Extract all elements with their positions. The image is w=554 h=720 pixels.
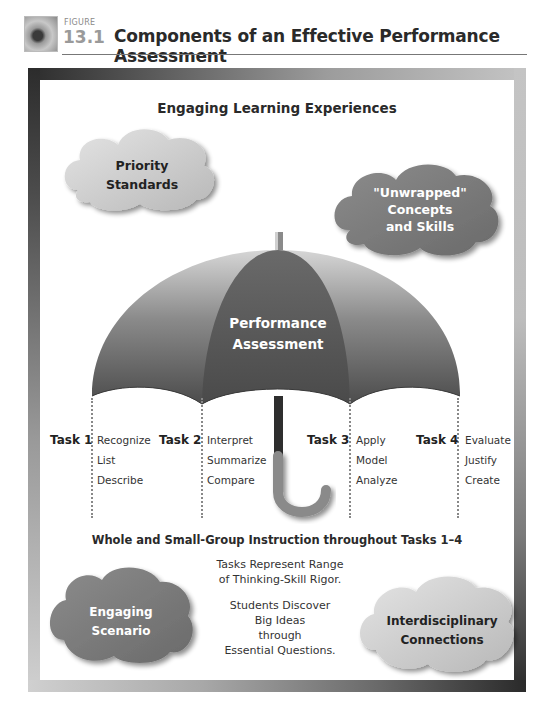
instruction-heading: Whole and Small-Group Instruction throug…	[40, 533, 514, 547]
rigor-line1: Tasks Represent Range	[200, 557, 360, 572]
priority-standards-line2: Standards	[82, 175, 202, 194]
engaging-scenario-line2: Scenario	[66, 622, 176, 641]
task1-label: Task 1	[50, 433, 92, 447]
priority-standards-line1: Priority	[82, 156, 202, 175]
discover-line3: through	[200, 628, 360, 643]
task3-label: Task 3	[307, 433, 349, 447]
skill-recognize: Recognize	[97, 430, 151, 450]
skill-summarize: Summarize	[207, 450, 266, 470]
skill-list: List	[97, 450, 151, 470]
top-heading: Engaging Learning Experiences	[40, 100, 514, 116]
interdisciplinary-line1: Interdisciplinary	[372, 612, 512, 631]
skill-analyze: Analyze	[356, 470, 397, 490]
task4-divider	[457, 398, 459, 518]
discover-line2: Big Ideas	[200, 613, 360, 628]
rigor-line2: of Thinking-Skill Rigor.	[200, 572, 360, 587]
task4-label: Task 4	[416, 433, 458, 447]
unwrapped-line2: Concepts	[360, 201, 480, 218]
skill-create: Create	[465, 470, 511, 490]
interdisciplinary-label: Interdisciplinary Connections	[372, 612, 512, 650]
skill-model: Model	[356, 450, 397, 470]
umbrella-label: Performance Assessment	[214, 313, 342, 355]
task3-skills: Apply Model Analyze	[356, 430, 397, 490]
unwrapped-label: "Unwrapped" Concepts and Skills	[360, 184, 480, 235]
task3-divider	[349, 398, 351, 518]
umbrella-shaft	[274, 396, 283, 458]
discover-line1: Students Discover	[200, 598, 360, 613]
unwrapped-line1: "Unwrapped"	[360, 184, 480, 201]
discover-note: Students Discover Big Ideas through Esse…	[200, 598, 360, 658]
engaging-scenario-line1: Engaging	[66, 603, 176, 622]
umbrella-line1: Performance	[214, 313, 342, 334]
task2-divider	[201, 398, 203, 518]
skill-evaluate: Evaluate	[465, 430, 511, 450]
priority-standards-label: Priority Standards	[82, 156, 202, 194]
interdisciplinary-line2: Connections	[372, 631, 512, 650]
task2-label: Task 2	[159, 433, 201, 447]
skill-justify: Justify	[465, 450, 511, 470]
skill-apply: Apply	[356, 430, 397, 450]
rigor-note: Tasks Represent Range of Thinking-Skill …	[200, 557, 360, 587]
skill-compare: Compare	[207, 470, 266, 490]
task2-skills: Interpret Summarize Compare	[207, 430, 266, 490]
task4-skills: Evaluate Justify Create	[465, 430, 511, 490]
discover-line4: Essential Questions.	[200, 643, 360, 658]
skill-interpret: Interpret	[207, 430, 266, 450]
engaging-scenario-label: Engaging Scenario	[66, 603, 176, 641]
task1-divider	[91, 398, 93, 518]
unwrapped-line3: and Skills	[360, 218, 480, 235]
umbrella-handle	[278, 456, 326, 512]
umbrella-line2: Assessment	[214, 334, 342, 355]
task1-skills: Recognize List Describe	[97, 430, 151, 490]
skill-describe: Describe	[97, 470, 151, 490]
